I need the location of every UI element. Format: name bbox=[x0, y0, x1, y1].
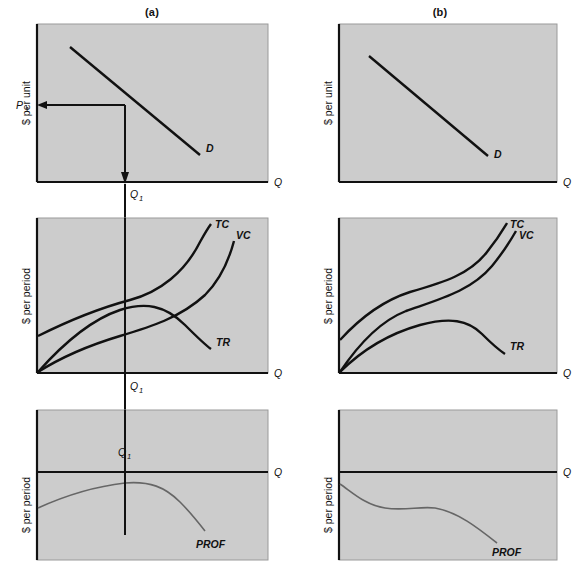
total-revenue-label-b: TR bbox=[510, 340, 524, 352]
profit-label-b: PROF bbox=[492, 546, 522, 558]
panel-a-middle: Q $ per period TC VC TR Q 1 bbox=[20, 218, 282, 395]
panel-a-top-x-axis-label: Q bbox=[274, 176, 282, 188]
panel-b-middle-x-axis-label: Q bbox=[563, 367, 571, 379]
panel-a-bottom: Q $ per period PROF Q 1 bbox=[20, 410, 282, 560]
panel-b-top: Q $ per unit D bbox=[322, 24, 571, 188]
total-cost-label-a: TC bbox=[215, 218, 229, 230]
demand-curve-label-b: D bbox=[494, 148, 502, 160]
variable-cost-label-a: VC bbox=[236, 229, 251, 241]
panel-b-bottom-background bbox=[339, 410, 557, 560]
quantity-1-subscript-a-bottom: 1 bbox=[127, 452, 131, 461]
figure-container: (a) (b) Q $ per unit D P 1 Q 1 bbox=[0, 0, 579, 573]
total-revenue-label-a: TR bbox=[216, 336, 230, 348]
demand-curve-label-a: D bbox=[206, 142, 214, 154]
panel-b-middle-y-axis-label: $ per period bbox=[322, 268, 334, 324]
panel-b-top-x-axis-label: Q bbox=[563, 176, 571, 188]
panel-a-bottom-y-axis-label: $ per period bbox=[20, 477, 32, 533]
quantity-1-label-a-middle: Q bbox=[130, 380, 138, 392]
panel-a-middle-y-axis-label: $ per period bbox=[20, 268, 32, 324]
column-title-a: (a) bbox=[112, 6, 192, 18]
price-1-subscript: 1 bbox=[25, 105, 29, 114]
panel-a-middle-x-axis-label: Q bbox=[274, 367, 282, 379]
figure-svg: Q $ per unit D P 1 Q 1 Q $ per period bbox=[0, 0, 579, 573]
quantity-1-subscript-a-middle: 1 bbox=[139, 386, 143, 395]
panel-a-top: Q $ per unit D P 1 Q 1 bbox=[16, 24, 282, 203]
panel-b-bottom-x-axis-label: Q bbox=[563, 466, 571, 478]
quantity-1-label-a-top: Q bbox=[130, 188, 138, 200]
panel-b-middle: Q $ per period TC VC TR bbox=[322, 218, 571, 379]
quantity-1-label-a-bottom: Q bbox=[118, 446, 126, 458]
panel-b-bottom: Q $ per period PROF bbox=[322, 410, 571, 560]
column-title-b: (b) bbox=[400, 6, 480, 18]
quantity-1-subscript-a-top: 1 bbox=[139, 194, 143, 203]
panel-b-top-y-axis-label: $ per unit bbox=[322, 81, 334, 125]
panel-b-top-background bbox=[339, 24, 557, 182]
profit-label-a: PROF bbox=[196, 538, 226, 550]
panel-b-bottom-y-axis-label: $ per period bbox=[322, 477, 334, 533]
price-1-label: P bbox=[16, 99, 23, 111]
panel-a-bottom-x-axis-label: Q bbox=[274, 466, 282, 478]
variable-cost-label-b: VC bbox=[519, 229, 534, 241]
